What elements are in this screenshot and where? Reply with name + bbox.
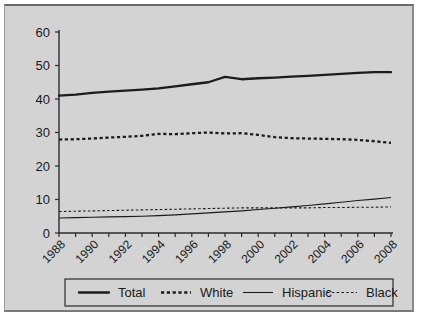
x-tick-label: 1996 <box>172 237 201 266</box>
x-tick-label: 2006 <box>338 237 367 266</box>
x-tick-label: 1994 <box>139 237 168 266</box>
series-line-total <box>59 72 391 95</box>
legend-label-hispanic: Hispanic <box>282 285 332 300</box>
chart-figure: 0102030405060 19881990199219941996199820… <box>4 4 414 312</box>
y-tick-label: 30 <box>36 125 50 140</box>
line-chart: 0102030405060 19881990199219941996199820… <box>5 6 415 314</box>
data-series-group <box>59 72 391 218</box>
legend-label-total: Total <box>118 285 146 300</box>
x-tick-label: 2002 <box>272 237 301 266</box>
x-tick-label: 2000 <box>239 237 268 266</box>
y-tick-label: 20 <box>36 159 50 174</box>
x-tick-label: 1992 <box>106 237 135 266</box>
x-tick-label: 2004 <box>305 237 334 266</box>
y-tick-label: 50 <box>36 58 50 73</box>
x-axis-tick-labels: 1988199019921994199619982000200220042006… <box>39 237 400 266</box>
y-tick-label: 10 <box>36 192 50 207</box>
series-line-white <box>59 133 391 143</box>
y-tick-label: 60 <box>36 25 50 40</box>
y-axis-tick-labels: 0102030405060 <box>36 25 50 241</box>
x-tick-label: 1990 <box>73 237 102 266</box>
x-tick-label: 1988 <box>39 237 68 266</box>
y-tick-label: 40 <box>36 92 50 107</box>
x-tick-label: 1998 <box>205 237 234 266</box>
legend-label-black: Black <box>366 285 398 300</box>
chart-legend: TotalWhiteHispanicBlack <box>65 279 398 306</box>
x-axis-ticks <box>59 233 391 237</box>
x-tick-label: 2008 <box>371 237 400 266</box>
y-tick-label: 0 <box>43 226 50 241</box>
legend-label-white: White <box>200 285 233 300</box>
series-line-hispanic <box>59 197 391 217</box>
series-line-black <box>59 207 391 212</box>
